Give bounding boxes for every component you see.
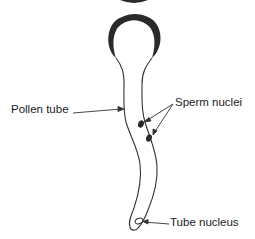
pollen-tube-arrowhead [118,107,124,112]
cropped-title-fragment [120,0,148,3]
pollen-tube-leader [73,109,121,113]
pollen-grain-exine [108,14,160,58]
label-pollen-tube: Pollen tube [11,104,69,116]
tube-right-wall [138,58,157,228]
pollen-tube-walls [116,58,157,230]
pollen-grain [108,14,160,58]
label-tube-nucleus: Tube nucleus [170,217,239,229]
label-sperm-nuclei: Sperm nuclei [175,97,242,109]
sperm-nucleus-1 [137,119,145,128]
tube-nucleus [134,217,143,225]
sperm-nuclei-leader-2 [154,104,173,133]
pollen-tube-diagram [0,0,255,239]
leader-lines [73,104,173,224]
tube-left-wall [116,58,141,227]
tube-tip [130,227,138,230]
